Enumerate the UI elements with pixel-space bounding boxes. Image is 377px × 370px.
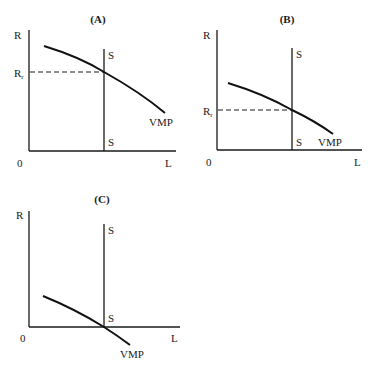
panel-b-vmp-label: VMP bbox=[318, 136, 342, 148]
panel-a-supply-top-label: S bbox=[108, 49, 114, 61]
panel-a-rent-label: Rr bbox=[14, 67, 24, 81]
panel-b-y-axis-label: R bbox=[203, 29, 211, 41]
panel-b-supply-bottom-label: S bbox=[296, 136, 302, 148]
panel-c-x-axis-label: L bbox=[171, 332, 178, 344]
panel-a-supply-bottom-label: S bbox=[108, 136, 114, 148]
panel-a-x-axis-label: L bbox=[165, 157, 172, 169]
panel-b-origin-label: 0 bbox=[206, 156, 212, 168]
panel-a-title: (A) bbox=[90, 13, 106, 26]
panel-c-vmp-label: VMP bbox=[120, 348, 144, 360]
panel-c: (C) R 0 L S S VMP bbox=[16, 193, 180, 360]
panel-a-vmp-label: VMP bbox=[149, 116, 173, 128]
panel-b-vmp-curve bbox=[228, 83, 333, 134]
panel-b-supply-top-label: S bbox=[296, 48, 302, 60]
panel-b: (B) R 0 L Rr S S VMP bbox=[203, 13, 362, 168]
panel-c-title: (C) bbox=[94, 193, 110, 206]
panel-c-vmp-curve bbox=[43, 296, 130, 345]
panel-c-supply-top-label: S bbox=[108, 224, 114, 236]
panel-b-rent-label: Rr bbox=[203, 105, 213, 119]
panel-a-y-axis-label: R bbox=[14, 29, 22, 41]
panel-c-origin-label: 0 bbox=[20, 332, 26, 344]
panel-a: (A) R 0 L Rr S S VMP bbox=[14, 13, 176, 169]
panel-a-origin-label: 0 bbox=[17, 157, 23, 169]
economics-diagram: (A) R 0 L Rr S S VMP (B) R 0 L Rr S S VM bbox=[0, 0, 377, 370]
panel-b-x-axis-label: L bbox=[354, 156, 361, 168]
panel-c-supply-bottom-label: S bbox=[108, 312, 114, 324]
panel-b-title: (B) bbox=[280, 13, 295, 26]
panel-c-y-axis-label: R bbox=[16, 209, 24, 221]
